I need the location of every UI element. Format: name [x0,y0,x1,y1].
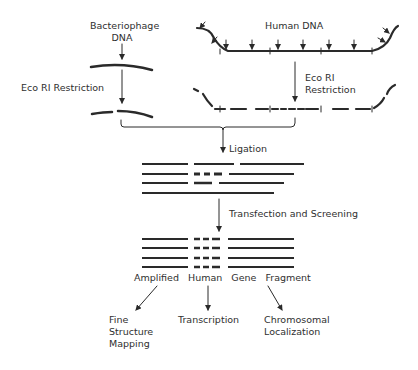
label-human-dna: Human DNA [265,20,323,32]
word-human: Human [188,272,222,283]
label-transfection: Transfection and Screening [229,208,358,220]
phage-dna-cut [92,111,152,117]
label-phage-restriction: Eco RI Restriction [21,82,104,94]
label-bacteriophage-dna: Bacteriophage DNA [90,20,154,44]
arrow-to-localization [268,286,282,310]
label-ligation: Ligation [229,143,267,155]
word-amplified: Amplified [134,272,179,283]
label-human-restriction: Eco RI Restriction [305,72,356,96]
amplified-fragments [142,239,294,267]
join-bracket [121,118,295,130]
label-fine-structure-mapping: Fine Structure Mapping [109,314,153,350]
label-chromosomal-localization: Chromosomal Localization [264,314,330,338]
phage-dna-intact [91,65,152,70]
label-transcription: Transcription [178,314,239,326]
word-fragment: Fragment [265,272,310,283]
word-gene: Gene [231,272,256,283]
ligation-products [142,164,304,193]
product-label: Amplified Human Gene Fragment [134,272,311,284]
arrow-to-mapping [136,286,157,310]
